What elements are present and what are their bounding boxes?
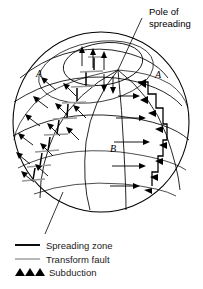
legend: Spreading zone Transform fault Subductio… xyxy=(15,240,113,278)
legend-item-spreading-zone: Spreading zone xyxy=(15,240,113,251)
subduction-symbol xyxy=(15,268,45,276)
globe-group: A A B xyxy=(13,32,189,212)
region-label-a-left: A xyxy=(35,68,43,79)
legend-label-subduction: Subduction xyxy=(49,267,97,278)
pole-callout-line1: Pole of xyxy=(149,6,179,17)
figure-root: A A B Pole of spreading Spreading zone T… xyxy=(0,0,203,289)
legend-label-transform-fault: Transform fault xyxy=(46,254,110,265)
region-label-b-center: B xyxy=(110,143,116,154)
legend-label-spreading-zone: Spreading zone xyxy=(46,240,113,251)
legend-item-transform-fault: Transform fault xyxy=(15,254,110,265)
pole-callout-line2: spreading xyxy=(149,18,191,29)
legend-item-subduction: Subduction xyxy=(15,267,97,278)
region-label-a-right: A xyxy=(154,69,162,80)
globe-diagram-svg: A A B Pole of spreading Spreading zone T… xyxy=(0,0,203,289)
